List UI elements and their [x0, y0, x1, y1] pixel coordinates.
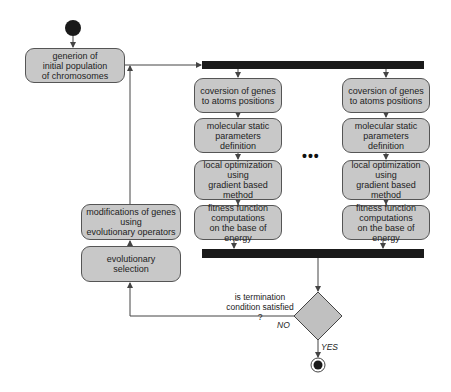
yes-label: YES: [321, 342, 338, 352]
fork-bar: [202, 61, 424, 69]
right-parameters-box: molecular static parameters definition: [342, 118, 430, 153]
left-fitness-box: fitness function computations on the bas…: [194, 205, 282, 240]
left-optimization-box: local optimization using gradient based …: [194, 160, 282, 200]
right-conversion-box: coversion of genes to atoms positions: [342, 78, 430, 113]
left-conversion-box: coversion of genes to atoms positions: [194, 78, 282, 113]
no-label: NO: [277, 320, 290, 330]
decision-diamond: [294, 292, 342, 340]
right-fitness-box: fitness function computations on the bas…: [342, 205, 430, 240]
decision-label: is termination condition satisfied ?: [226, 292, 294, 322]
start-node: [65, 20, 81, 36]
right-optimization-box: local optimization using gradient based …: [342, 160, 430, 200]
end-node: [314, 361, 323, 370]
modifications-box: modifications of genes using evolutionar…: [81, 204, 181, 240]
left-parameters-box: molecular static parameters definition: [194, 118, 282, 153]
join-bar: [202, 249, 424, 258]
ellipsis-dots: •••: [302, 148, 320, 164]
init-population-box: generion of initial population of chromo…: [25, 48, 125, 83]
selection-box: evolutionary selection: [81, 246, 181, 282]
